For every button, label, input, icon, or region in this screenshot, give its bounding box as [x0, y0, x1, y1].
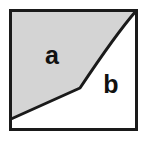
region-diagram: a b — [0, 0, 146, 143]
region-b-label: b — [103, 70, 118, 98]
figure-container: a b — [0, 0, 146, 143]
region-a-label: a — [45, 41, 60, 69]
